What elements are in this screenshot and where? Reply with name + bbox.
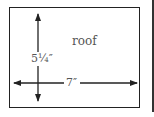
dimension-arrows — [0, 0, 154, 117]
roof-label: roof — [72, 35, 97, 47]
height-dimension-label: 5¼″ — [31, 53, 53, 64]
width-dimension-label: 7″ — [66, 77, 77, 88]
